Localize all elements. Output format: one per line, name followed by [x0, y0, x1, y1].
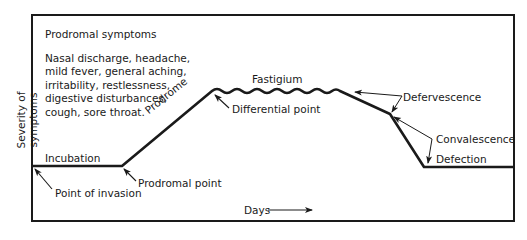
convalescence-arrow-b: [428, 139, 432, 163]
differential-arrow: [215, 95, 229, 108]
differential-point: Differential point: [232, 104, 320, 115]
stage-defection: Defection: [436, 154, 487, 165]
stage-convalescence: Convalescence: [436, 134, 515, 145]
stage-fastigium: Fastigium: [252, 74, 302, 85]
symptom-line: Nasal discharge, headache,: [45, 52, 205, 65]
prodromal-symptoms-title: Prodromal symptoms: [45, 28, 157, 40]
symptom-line: cough, sore throat.: [45, 106, 205, 119]
point-of-invasion: Point of invasion: [55, 188, 142, 199]
symptom-line: digestive disturbances,: [45, 92, 205, 105]
prodromal-point: Prodromal point: [138, 178, 222, 189]
defervescence-arrow-b: [392, 96, 402, 112]
stage-defervescence: Defervescence: [403, 92, 481, 103]
defervescence-arrow-a: [355, 92, 402, 96]
x-axis-label: Days: [244, 205, 270, 216]
stage-incubation: Incubation: [45, 153, 100, 164]
prodromal-arrow: [124, 169, 136, 181]
y-axis-label: Severity of symptoms: [15, 65, 39, 175]
